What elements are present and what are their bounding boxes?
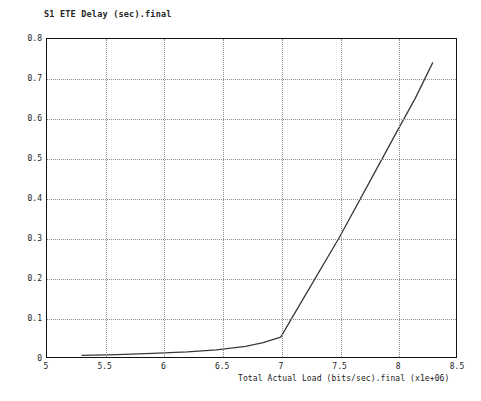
gridline-vertical (282, 39, 283, 357)
x-tick-label: 5.5 (97, 362, 111, 371)
x-tick-label: 8.5 (450, 362, 464, 371)
y-tick-label: 0.8 (2, 34, 42, 43)
y-tick-label: 0.5 (2, 154, 42, 163)
y-tick-label: 0.4 (2, 194, 42, 203)
gridline-horizontal (47, 319, 456, 320)
gridline-vertical (106, 39, 107, 357)
gridline-horizontal (47, 199, 456, 200)
x-tick-label: 8 (396, 362, 401, 371)
y-tick-label: 0.6 (2, 114, 42, 123)
y-axis-tick-labels: 00.10.20.30.40.50.60.70.8 (0, 38, 42, 358)
x-tick-label: 5 (44, 362, 49, 371)
chart-title: S1 ETE Delay (sec).final (44, 9, 172, 19)
gridline-horizontal (47, 279, 456, 280)
x-tick-label: 7.5 (332, 362, 346, 371)
x-tick-label: 6 (161, 362, 166, 371)
gridline-vertical (223, 39, 224, 357)
gridline-horizontal (47, 239, 456, 240)
x-tick-label: 6.5 (215, 362, 229, 371)
y-tick-label: 0 (2, 354, 42, 363)
y-tick-label: 0.2 (2, 274, 42, 283)
chart-figure: S1 ETE Delay (sec).final 00.10.20.30.40.… (0, 0, 481, 401)
gridline-vertical (399, 39, 400, 357)
plot-area (46, 38, 457, 358)
gridline-horizontal (47, 119, 456, 120)
y-tick-label: 0.7 (2, 74, 42, 83)
x-tick-label: 7 (278, 362, 283, 371)
x-axis-label: Total Actual Load (bits/sec).final (x1e+… (238, 374, 449, 383)
data-series-svg (47, 39, 456, 357)
gridline-horizontal (47, 79, 456, 80)
gridline-horizontal (47, 159, 456, 160)
y-tick-label: 0.3 (2, 234, 42, 243)
y-tick-label: 0.1 (2, 314, 42, 323)
data-line-s1-ete-delay (82, 63, 433, 356)
gridline-vertical (164, 39, 165, 357)
gridline-vertical (341, 39, 342, 357)
